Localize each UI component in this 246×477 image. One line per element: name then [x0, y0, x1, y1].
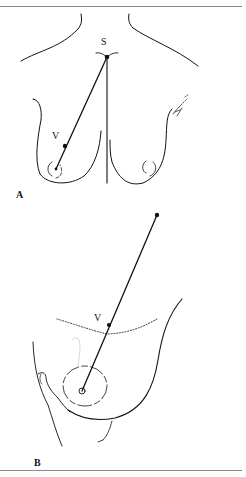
point-label-s: S — [101, 36, 107, 47]
panel-a-drawing — [21, 14, 198, 184]
panel-label-a: A — [16, 189, 23, 200]
point-label-v-b: V — [94, 312, 101, 323]
panel-label-b: B — [34, 457, 41, 468]
bottom-rule — [0, 470, 242, 471]
point-label-v-a: V — [52, 130, 59, 141]
breast-measurement-diagram — [0, 0, 246, 477]
panel-b-drawing — [33, 213, 182, 446]
